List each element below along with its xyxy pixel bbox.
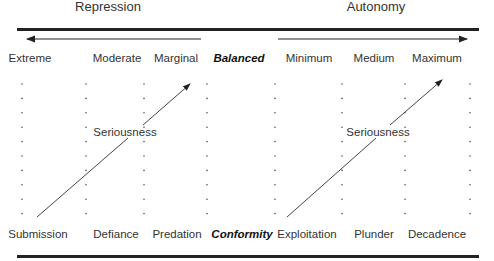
seriousness-right-label: Seriousness xyxy=(338,125,418,139)
label-submission: Submission xyxy=(0,227,78,241)
label-balanced: Balanced xyxy=(199,51,279,65)
diagram-graphics xyxy=(0,0,494,261)
dot-grid xyxy=(21,83,471,214)
label-extreme: Extreme xyxy=(0,51,70,65)
seriousness-left-label: Seriousness xyxy=(85,125,165,139)
label-decadence: Decadence xyxy=(397,227,477,241)
label-maximum: Maximum xyxy=(397,51,477,65)
